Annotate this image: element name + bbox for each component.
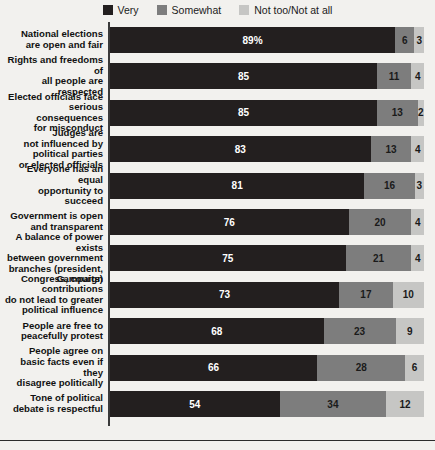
bar-segment: 11 [377, 63, 412, 89]
stacked-bar: 68239 [110, 318, 424, 344]
bar-value-label: 10 [403, 289, 414, 300]
stacked-bar: 89%63 [110, 27, 424, 53]
plot-area: National electionsare open and fair89%63… [0, 22, 435, 428]
bar-value-label: 2 [418, 107, 424, 118]
category-label-line: A balance of power exists [0, 232, 103, 253]
bar-segment: 85 [110, 63, 377, 89]
category-label-line: peacefully protest [21, 331, 103, 342]
category-label: Judges arenot influenced bypolitical par… [0, 131, 103, 167]
bar-value-label: 16 [384, 180, 395, 191]
bar-value-label: 83 [235, 144, 246, 155]
bar-value-label: 89% [243, 35, 263, 46]
stacked-bar: 81163 [110, 173, 424, 199]
bar-segment: 9 [396, 318, 424, 344]
category-label-line: basic facts even if they [0, 357, 103, 378]
stacked-bar-chart: VerySomewhatNot too/Not at all National … [0, 0, 435, 450]
bar-value-label: 9 [407, 326, 413, 337]
stacked-bar: 85114 [110, 63, 424, 89]
bar-value-label: 11 [389, 71, 400, 82]
bar-value-label: 4 [415, 144, 421, 155]
bar-segment: 16 [364, 173, 414, 199]
bar-segment: 6 [405, 355, 424, 381]
category-label: People are free topeacefully protest [0, 313, 103, 349]
bar-value-label: 3 [416, 180, 422, 191]
category-label-line: serious consequences [0, 102, 103, 123]
chart-legend: VerySomewhatNot too/Not at all [0, 2, 435, 18]
bar-value-label: 75 [222, 253, 233, 264]
bar-row: People agree onbasic facts even if theyd… [0, 350, 435, 386]
bar-value-label: 85 [238, 107, 249, 118]
category-label: Everyone has an equalopportunity to succ… [0, 168, 103, 204]
bar-segment: 4 [411, 63, 424, 89]
bar-value-label: 34 [327, 399, 338, 410]
bar-segment: 20 [349, 209, 412, 235]
bar-value-label: 17 [360, 289, 371, 300]
bar-segment: 3 [415, 173, 424, 199]
bar-segment: 21 [346, 245, 412, 271]
bar-segment: 3 [414, 27, 424, 53]
bar-value-label: 4 [415, 217, 421, 228]
legend-swatch-icon [103, 5, 113, 15]
bar-value-label: 12 [400, 399, 411, 410]
category-label-line: Campaign contributions [0, 274, 103, 295]
bar-segment: 89% [110, 27, 395, 53]
bar-segment: 75 [110, 245, 346, 271]
footer-divider [0, 440, 435, 441]
bar-value-label: 54 [189, 399, 200, 410]
bar-segment: 12 [386, 391, 424, 417]
bar-segment: 4 [411, 136, 424, 162]
category-label-line: are open and fair [26, 40, 103, 51]
bar-value-label: 68 [211, 326, 222, 337]
bar-value-label: 20 [374, 217, 385, 228]
category-label: Rights and freedoms ofall people are res… [0, 58, 103, 94]
bar-segment: 4 [411, 245, 424, 271]
stacked-bar: 85132 [110, 100, 424, 126]
category-label-line: Rights and freedoms of [0, 55, 103, 76]
bar-segment: 68 [110, 318, 324, 344]
stacked-bar: 731710 [110, 282, 424, 308]
bar-segment: 73 [110, 282, 339, 308]
bar-value-label: 66 [208, 362, 219, 373]
bar-row: Elected officials faceserious consequenc… [0, 95, 435, 131]
legend-label: Very [118, 5, 139, 16]
bar-segment: 76 [110, 209, 349, 235]
category-label: National electionsare open and fair [0, 22, 103, 58]
category-label: A balance of power existsbetween governm… [0, 240, 103, 276]
category-label: Campaign contributionsdo not lead to gre… [0, 277, 103, 313]
bar-value-label: 23 [354, 326, 365, 337]
bar-value-label: 13 [392, 107, 403, 118]
legend-item[interactable]: Very [103, 5, 139, 16]
bar-value-label: 13 [385, 144, 396, 155]
bar-row: Everyone has an equalopportunity to succ… [0, 168, 435, 204]
legend-item[interactable]: Not too/Not at all [239, 5, 332, 16]
bar-segment: 13 [371, 136, 412, 162]
bar-row: People are free topeacefully protest6823… [0, 313, 435, 349]
bar-value-label: 3 [416, 35, 422, 46]
bar-segment: 28 [317, 355, 405, 381]
stacked-bar: 66286 [110, 355, 424, 381]
bar-segment: 4 [411, 209, 424, 235]
bar-segment: 66 [110, 355, 317, 381]
bar-segment: 10 [393, 282, 424, 308]
bar-value-label: 76 [224, 217, 235, 228]
bar-value-label: 81 [232, 180, 243, 191]
category-label-line: Everyone has an equal [0, 164, 103, 185]
legend-label: Not too/Not at all [254, 5, 332, 16]
bar-value-label: 21 [373, 253, 384, 264]
legend-label: Somewhat [172, 5, 222, 16]
category-label: People agree onbasic facts even if theyd… [0, 350, 103, 386]
bar-segment: 54 [110, 391, 280, 417]
bar-value-label: 73 [219, 289, 230, 300]
legend-item[interactable]: Somewhat [157, 5, 222, 16]
stacked-bar: 75214 [110, 245, 424, 271]
category-label-line: debate is respectful [13, 404, 103, 415]
bar-segment: 17 [339, 282, 392, 308]
bar-value-label: 4 [415, 253, 421, 264]
category-label: Tone of politicaldebate is respectful [0, 386, 103, 422]
bar-segment: 23 [324, 318, 396, 344]
bar-value-label: 28 [356, 362, 367, 373]
bar-row: Judges arenot influenced bypolitical par… [0, 131, 435, 167]
category-label-line: Judges are [52, 128, 103, 139]
bar-segment: 83 [110, 136, 371, 162]
bar-value-label: 6 [412, 362, 418, 373]
